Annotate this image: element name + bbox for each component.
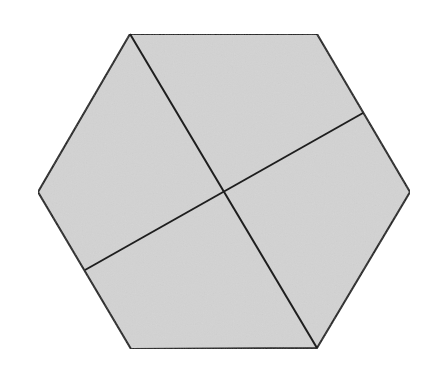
diagram-canvas xyxy=(0,0,429,374)
hexagon-figure xyxy=(0,0,429,374)
